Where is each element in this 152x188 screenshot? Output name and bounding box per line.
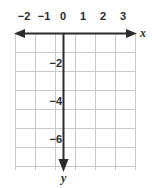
grid-lines xyxy=(15,33,136,170)
x-tick-label-1: 1 xyxy=(80,11,86,22)
x-tick-label-3: 3 xyxy=(120,11,126,22)
x-tick-label-neg2: −2 xyxy=(18,11,31,22)
y-axis-name-label: y xyxy=(61,172,66,184)
y-tick-label-neg2: −2 xyxy=(44,58,62,69)
grid-lines-vertical xyxy=(16,33,136,170)
x-tick-label-2: 2 xyxy=(100,11,106,22)
coordinate-grid-figure: −2 −1 0 1 2 3 −2 −4 −6 x y xyxy=(0,0,152,188)
y-tick-label-neg4: −4 xyxy=(44,96,62,107)
x-axis-name-label: x xyxy=(140,27,146,39)
x-tick-label-0: 0 xyxy=(60,11,66,22)
x-tick-label-neg1: −1 xyxy=(38,11,51,22)
coordinate-plane-svg xyxy=(0,0,152,188)
y-tick-label-neg6: −6 xyxy=(44,134,62,145)
